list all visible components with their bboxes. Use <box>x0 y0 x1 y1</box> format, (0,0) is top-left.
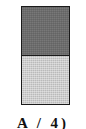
bar-segment-upper-dark <box>22 7 69 56</box>
bar-segment-lower-light <box>22 56 69 105</box>
figure-root: A / 4) <box>0 0 86 129</box>
stacked-bar-figure <box>21 6 70 105</box>
figure-caption: A / 4) <box>0 118 86 129</box>
figure-caption-clip: A / 4) <box>0 118 86 129</box>
